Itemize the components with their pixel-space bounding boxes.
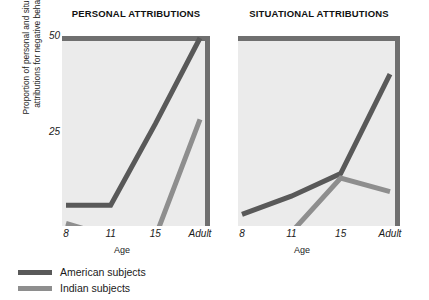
x-tick-8: 8 xyxy=(239,228,245,239)
x-tick-15: 15 xyxy=(150,228,161,239)
plot-lines-situational xyxy=(238,36,400,226)
chart-legend: American subjects Indian subjects xyxy=(18,264,146,296)
plot-panel-situational xyxy=(238,36,400,226)
y-tick-50: 50 xyxy=(49,30,60,41)
series-line-american xyxy=(66,38,200,205)
legend-item-indian: Indian subjects xyxy=(18,280,146,296)
legend-label-indian: Indian subjects xyxy=(60,282,130,294)
legend-swatch-icon xyxy=(18,286,52,291)
panel-title-personal: PERSONAL ATTRIBUTIONS xyxy=(62,8,210,19)
x-tick-15: 15 xyxy=(335,228,346,239)
legend-label-american: American subjects xyxy=(60,266,146,278)
x-axis-ticks-situational: 81115Adult xyxy=(238,228,400,244)
y-tick-25: 25 xyxy=(49,126,60,137)
x-axis-label-situational: Age xyxy=(272,245,332,255)
y-axis-label-line-1: Proportion of personal and situational xyxy=(21,0,32,114)
y-axis-ticks: 50 25 xyxy=(36,0,60,240)
x-tick-8: 8 xyxy=(63,228,69,239)
x-tick-11: 11 xyxy=(286,228,296,239)
x-tick-11: 11 xyxy=(105,228,115,239)
x-axis-label-personal: Age xyxy=(92,245,152,255)
x-axis-ticks-personal: 81115Adult xyxy=(62,228,210,244)
series-line-indian xyxy=(66,119,200,226)
chart-figure: PERSONAL ATTRIBUTIONS SITUATIONAL ATTRIB… xyxy=(0,0,429,300)
plot-lines-personal xyxy=(62,36,210,226)
legend-swatch-icon xyxy=(18,270,52,275)
legend-item-american: American subjects xyxy=(18,264,146,280)
series-line-american xyxy=(242,74,390,214)
panel-title-situational: SITUATIONAL ATTRIBUTIONS xyxy=(238,8,400,19)
plot-panel-personal xyxy=(62,36,210,226)
x-tick-adult: Adult xyxy=(379,228,402,239)
x-tick-adult: Adult xyxy=(189,228,212,239)
